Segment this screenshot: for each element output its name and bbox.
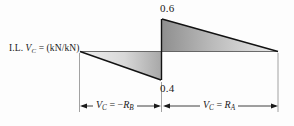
- dim-left-equals: = −: [107, 99, 123, 110]
- il-prefix: I.L.: [9, 43, 26, 53]
- dimension-label-left: VC = −RB: [93, 100, 137, 112]
- influence-line-figure: I.L. VC = (kN/kN) 0.6 0.4 VC = −RB VC = …: [0, 0, 294, 126]
- peak-positive-label: 0.6: [160, 3, 174, 14]
- il-units: = (kN/kN): [36, 43, 79, 53]
- dim-right-equals: =: [214, 99, 225, 110]
- influence-line-label: I.L. VC = (kN/kN): [9, 44, 79, 55]
- dimension-label-right: VC = RA: [200, 100, 238, 112]
- arrowhead-left-end: [154, 104, 161, 109]
- influence-line-graphic: [0, 0, 294, 126]
- arrowhead-right-end: [271, 104, 278, 109]
- arrowhead-left-start: [80, 104, 87, 109]
- arrowhead-right-start: [163, 104, 170, 109]
- dim-left-reaction-sub: B: [129, 104, 133, 112]
- peak-negative-label: 0.4: [160, 83, 174, 94]
- dim-right-reaction-sub: A: [231, 104, 235, 112]
